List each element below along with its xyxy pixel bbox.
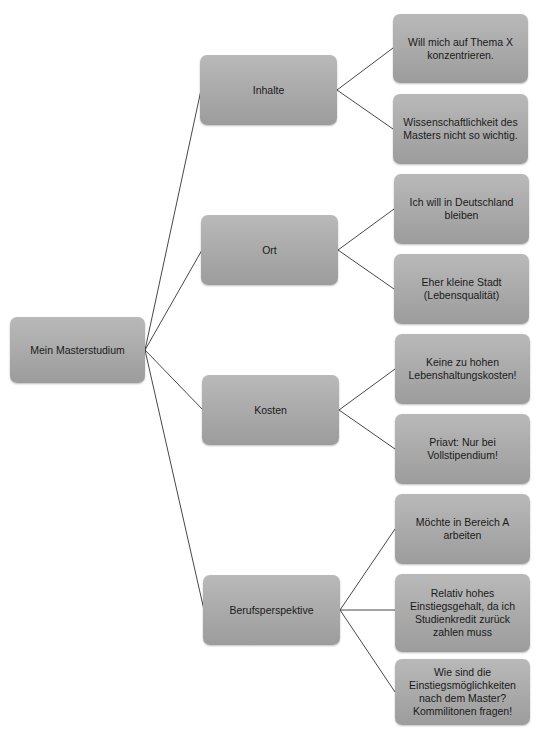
leaf-node: Eher kleine Stadt (Lebensqualität) <box>394 254 529 324</box>
root-node: Mein Masterstudium <box>10 317 145 383</box>
leaf-label: Ich will in Deutschland bleiben <box>402 196 521 222</box>
leaf-node: Wie sind die Einstiegsmöglichkeiten nach… <box>395 659 530 725</box>
leaf-label: Priavt: Nur bei Vollstipendium! <box>403 436 522 462</box>
branch-node-kosten: Kosten <box>202 375 339 445</box>
branch-node-ort: Ort <box>201 215 338 285</box>
branch-label: Inhalte <box>253 84 285 97</box>
leaf-label: Will mich auf Thema X konzentrieren. <box>401 36 520 62</box>
leaf-node: Will mich auf Thema X konzentrieren. <box>393 14 528 83</box>
leaf-label: Möchte in Bereich A arbeiten <box>403 516 522 542</box>
leaf-node: Möchte in Bereich A arbeiten <box>395 494 530 564</box>
branch-node-inhalte: Inhalte <box>200 55 337 125</box>
leaf-label: Wie sind die Einstiegsmöglichkeiten nach… <box>403 666 522 718</box>
root-label: Mein Masterstudium <box>30 344 125 357</box>
branch-node-berufsperspektive: Berufsperspektive <box>203 575 340 645</box>
leaf-label: Keine zu hohen Lebenshaltungskosten! <box>403 356 522 382</box>
leaf-node: Wissenschaftlichkeit des Masters nicht s… <box>393 94 528 164</box>
branch-label: Ort <box>262 244 277 257</box>
leaf-node: Keine zu hohen Lebenshaltungskosten! <box>395 334 530 404</box>
leaf-node: Relativ hohes Einstiegsgehalt, da ich St… <box>395 574 530 652</box>
leaf-node: Ich will in Deutschland bleiben <box>394 174 529 244</box>
leaf-label: Eher kleine Stadt (Lebensqualität) <box>402 276 521 302</box>
leaf-label: Relativ hohes Einstiegsgehalt, da ich St… <box>403 587 522 639</box>
branch-label: Kosten <box>254 404 287 417</box>
leaf-node: Priavt: Nur bei Vollstipendium! <box>395 414 530 484</box>
branch-label: Berufsperspektive <box>229 604 313 617</box>
leaf-label: Wissenschaftlichkeit des Masters nicht s… <box>401 116 520 142</box>
